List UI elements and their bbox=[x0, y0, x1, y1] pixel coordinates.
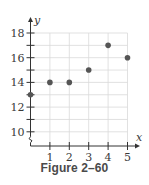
y-tick-label: 12 bbox=[11, 101, 25, 114]
y-tick-label: 14 bbox=[11, 76, 25, 89]
data-point bbox=[125, 55, 131, 61]
figure-caption: Figure 2–60 bbox=[0, 161, 149, 175]
data-point bbox=[28, 92, 34, 98]
y-tick-label: 16 bbox=[11, 52, 25, 65]
data-point bbox=[67, 80, 73, 86]
y-tick-label: 18 bbox=[11, 27, 25, 40]
axis-break-icon bbox=[29, 137, 32, 146]
grid-lines bbox=[31, 33, 128, 146]
data-point bbox=[86, 67, 92, 73]
y-axis-arrow-icon bbox=[28, 17, 33, 22]
y-axis-label: y bbox=[33, 14, 41, 27]
data-point bbox=[105, 43, 111, 49]
y-tick-label: 10 bbox=[11, 126, 25, 139]
data-point bbox=[47, 80, 53, 86]
x-axis-label: x bbox=[136, 131, 143, 144]
x-axis-arrow-icon bbox=[135, 144, 140, 149]
scatter-chart: 1012141618 12345 x y bbox=[0, 0, 149, 185]
